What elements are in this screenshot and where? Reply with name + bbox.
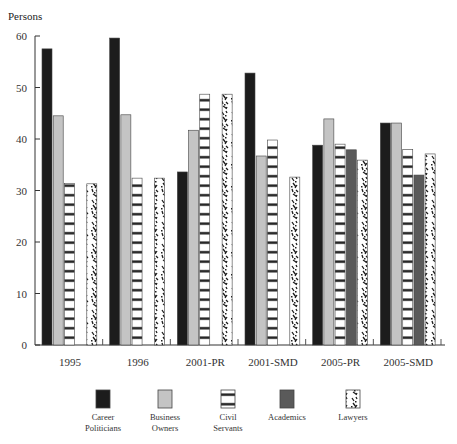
bar-civil-servants bbox=[64, 183, 74, 345]
bar-lawyers bbox=[425, 154, 435, 345]
x-tick-label: 2005-SMD bbox=[384, 356, 434, 368]
bars bbox=[42, 38, 435, 345]
bar-academics bbox=[346, 150, 356, 345]
bar-lawyers bbox=[154, 178, 164, 345]
y-tick-label: 50 bbox=[16, 82, 28, 94]
y-tick-label: 60 bbox=[16, 30, 28, 42]
bar-civil-servants bbox=[335, 144, 345, 345]
legend-swatch-career-politicians bbox=[96, 390, 110, 408]
bar-lawyers bbox=[222, 94, 232, 345]
x-axis-labels: 199519962001-PR2001-SMD2005-PR2005-SMD bbox=[59, 356, 433, 368]
x-tick-label: 1995 bbox=[59, 356, 82, 368]
legend-swatch-lawyers bbox=[346, 390, 360, 408]
legend-label: Servants bbox=[213, 423, 242, 433]
bar-civil-servants bbox=[200, 94, 210, 345]
y-tick-label: 0 bbox=[22, 339, 28, 351]
bar-career-politicians bbox=[42, 49, 52, 345]
bar-business-owners bbox=[324, 119, 334, 345]
x-tick-label: 2005-PR bbox=[321, 356, 361, 368]
legend-label: Career bbox=[92, 412, 115, 422]
bar-business-owners bbox=[392, 123, 402, 345]
bar-civil-servants bbox=[403, 149, 413, 345]
bar-academics bbox=[414, 175, 424, 345]
x-tick-label: 2001-SMD bbox=[248, 356, 298, 368]
bar-career-politicians bbox=[380, 123, 390, 345]
bar-lawyers bbox=[87, 184, 97, 345]
x-tick-label: 1996 bbox=[127, 356, 150, 368]
y-tick-label: 40 bbox=[16, 133, 28, 145]
bar-career-politicians bbox=[245, 73, 255, 345]
legend-label: Owners bbox=[152, 423, 178, 433]
bar-business-owners bbox=[121, 115, 131, 345]
bar-civil-servants bbox=[132, 178, 142, 345]
bar-civil-servants bbox=[267, 140, 277, 345]
x-tick-label: 2001-PR bbox=[186, 356, 226, 368]
bar-lawyers bbox=[357, 160, 367, 345]
bar-business-owners bbox=[53, 116, 63, 345]
y-axis-label: Persons bbox=[8, 10, 42, 22]
legend-label: Academics bbox=[268, 412, 306, 422]
bar-career-politicians bbox=[313, 145, 323, 345]
legend: CareerPoliticiansBusinessOwnersCivilServ… bbox=[85, 390, 368, 433]
legend-swatch-academics bbox=[280, 390, 294, 408]
bar-business-owners bbox=[256, 156, 266, 345]
legend-label: Politicians bbox=[85, 423, 121, 433]
bar-career-politicians bbox=[110, 38, 120, 345]
y-tick-label: 30 bbox=[16, 185, 28, 197]
bar-lawyers bbox=[290, 177, 300, 345]
y-tick-label: 10 bbox=[16, 288, 28, 300]
bar-career-politicians bbox=[177, 172, 187, 345]
y-tick-label: 20 bbox=[16, 236, 28, 248]
legend-swatch-civil-servants bbox=[221, 390, 235, 408]
legend-label: Civil bbox=[219, 412, 237, 422]
legend-label: Lawyers bbox=[338, 412, 367, 422]
bar-chart: Persons 0102030405060 199519962001-PR200… bbox=[0, 0, 457, 444]
bar-business-owners bbox=[189, 130, 199, 345]
legend-swatch-business-owners bbox=[158, 390, 172, 408]
legend-label: Business bbox=[150, 412, 180, 422]
